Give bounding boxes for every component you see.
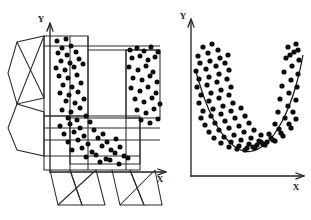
data-point xyxy=(76,138,81,143)
data-point xyxy=(272,121,277,126)
data-point xyxy=(80,146,85,151)
data-point xyxy=(61,83,66,88)
data-point xyxy=(131,76,136,81)
data-point xyxy=(206,129,211,134)
data-point xyxy=(214,79,219,84)
data-point xyxy=(108,158,113,163)
data-point xyxy=(114,137,119,142)
right-x-axis-label: X xyxy=(293,182,300,192)
data-point xyxy=(216,127,221,132)
data-point xyxy=(218,87,223,92)
data-point xyxy=(296,57,301,62)
data-point xyxy=(242,147,247,152)
data-point xyxy=(285,44,290,49)
data-point xyxy=(135,108,140,113)
data-point xyxy=(127,65,132,70)
data-point xyxy=(101,132,106,137)
data-point xyxy=(294,84,299,89)
data-point xyxy=(198,115,203,120)
left-panel: Y X xyxy=(8,14,166,205)
data-point xyxy=(66,76,71,81)
data-point xyxy=(79,81,84,86)
data-point xyxy=(63,68,68,73)
paired-scatter-figure: Y X xyxy=(0,0,311,220)
data-point xyxy=(70,85,75,90)
data-point xyxy=(81,62,86,67)
net-bottom-flap-crossing xyxy=(58,170,155,205)
data-point xyxy=(70,148,75,153)
data-point xyxy=(140,78,145,83)
data-point xyxy=(105,140,110,145)
data-point xyxy=(82,97,87,102)
data-point xyxy=(88,120,93,125)
data-point xyxy=(59,59,64,64)
data-point xyxy=(290,109,295,114)
data-point xyxy=(222,118,227,123)
data-point xyxy=(248,135,253,140)
data-point xyxy=(277,96,282,101)
data-point xyxy=(210,106,215,111)
net-bottom-flap-2 xyxy=(70,170,105,205)
data-point xyxy=(94,153,99,158)
data-point xyxy=(251,127,256,132)
data-point xyxy=(250,144,255,149)
data-point xyxy=(228,84,233,89)
data-point xyxy=(66,116,71,121)
data-point xyxy=(72,65,77,70)
right-panel-points xyxy=(193,41,301,152)
data-point xyxy=(60,46,65,51)
data-point xyxy=(213,63,218,68)
data-point xyxy=(196,100,201,105)
data-point xyxy=(86,142,91,147)
data-point xyxy=(225,52,230,57)
data-point xyxy=(206,74,211,79)
data-point xyxy=(208,90,213,95)
data-point xyxy=(58,91,63,96)
data-point xyxy=(66,140,71,145)
data-point xyxy=(236,123,241,128)
data-point xyxy=(266,131,271,136)
data-point xyxy=(226,92,231,97)
data-point xyxy=(241,129,246,134)
data-point xyxy=(276,126,281,131)
data-point xyxy=(100,144,105,149)
data-point xyxy=(208,113,213,118)
data-point xyxy=(206,98,211,103)
data-point xyxy=(198,92,203,97)
data-point xyxy=(64,99,69,104)
data-point xyxy=(194,84,199,89)
data-point xyxy=(218,111,223,116)
data-point xyxy=(204,82,209,87)
data-point xyxy=(152,107,157,112)
data-point xyxy=(82,134,87,139)
data-point xyxy=(68,122,73,127)
data-point xyxy=(228,108,233,113)
data-point xyxy=(232,115,237,120)
data-point xyxy=(289,63,294,68)
data-point xyxy=(113,151,118,156)
data-point xyxy=(295,71,300,76)
data-point xyxy=(242,113,247,118)
data-point xyxy=(279,83,284,88)
data-point xyxy=(144,64,149,69)
data-point xyxy=(216,71,221,76)
data-point xyxy=(75,73,80,78)
data-point xyxy=(84,155,89,160)
data-point xyxy=(92,128,97,133)
data-point xyxy=(129,86,134,91)
data-point xyxy=(226,125,231,130)
data-point xyxy=(139,118,144,123)
data-point xyxy=(200,44,205,49)
data-point xyxy=(286,90,291,95)
data-point xyxy=(78,106,83,111)
data-point xyxy=(212,120,217,125)
net-bottom-flap-3 xyxy=(112,170,144,205)
data-point xyxy=(275,109,280,114)
data-point xyxy=(156,50,161,55)
data-point xyxy=(288,77,293,82)
data-point xyxy=(75,118,80,123)
data-point xyxy=(158,102,163,107)
data-point xyxy=(153,55,158,60)
data-point xyxy=(293,116,298,121)
data-point xyxy=(234,146,239,151)
